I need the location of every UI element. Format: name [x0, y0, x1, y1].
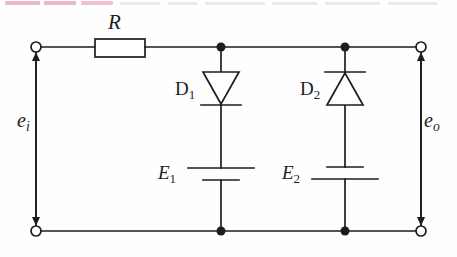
junction-dot-bottom-left-branch [217, 227, 226, 236]
junction-dot-top-left-branch [217, 43, 226, 52]
terminal-output-top [416, 42, 426, 52]
junction-dot-bottom-right-branch [341, 227, 350, 236]
battery2-label: E2 [282, 163, 300, 186]
output-arrowhead-up [417, 52, 425, 61]
resistor-label: R [108, 12, 121, 33]
diode1-label-subscript: 1 [189, 87, 195, 102]
battery2-label-subscript: 2 [294, 171, 300, 186]
diode1-label: D1 [175, 79, 195, 102]
input-voltage-label-subscript: i [26, 119, 30, 134]
input-voltage-label-base: e [17, 109, 26, 131]
resistor-body [95, 39, 145, 57]
circuit-diagram-canvas: R D1 D2 E1 E2 ei eo [0, 0, 457, 257]
output-voltage-label-base: e [424, 109, 433, 131]
battery1-label: E1 [158, 163, 176, 186]
terminal-input-bottom [31, 226, 41, 236]
diode2-label-subscript: 2 [314, 87, 320, 102]
input-arrowhead-up [32, 52, 40, 61]
input-arrowhead-down [32, 217, 40, 226]
output-arrowhead-down [417, 217, 425, 226]
terminal-input-top [31, 42, 41, 52]
diode2-label: D2 [300, 79, 320, 102]
output-voltage-label: eo [424, 110, 440, 133]
battery2-label-base: E [282, 162, 294, 183]
diode2-triangle [327, 73, 363, 105]
diode1-triangle [203, 72, 239, 104]
diode2-label-base: D [300, 78, 314, 99]
battery1-label-base: E [158, 162, 170, 183]
terminal-output-bottom [416, 226, 426, 236]
circuit-schematic [0, 0, 457, 257]
diode1-label-base: D [175, 78, 189, 99]
input-voltage-label: ei [17, 110, 30, 133]
output-voltage-label-subscript: o [433, 119, 440, 134]
battery1-label-subscript: 1 [170, 171, 176, 186]
junction-dot-top-right-branch [341, 43, 350, 52]
